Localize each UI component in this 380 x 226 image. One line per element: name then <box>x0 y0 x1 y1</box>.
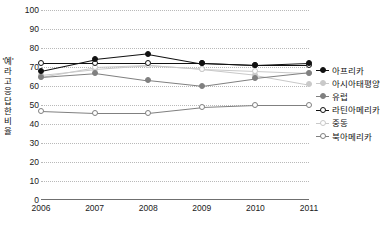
data-point <box>92 70 98 76</box>
gridline <box>41 86 309 87</box>
gridline <box>41 124 309 125</box>
data-point <box>199 60 205 66</box>
y-axis-tick-labels: 0102030405060708090100 <box>13 0 39 226</box>
data-point <box>145 51 151 57</box>
series-line <box>41 111 95 114</box>
gridline <box>41 162 309 163</box>
legend-label: 북아메리카 <box>332 132 372 142</box>
y-tick-label: 60 <box>17 81 39 91</box>
series-line <box>255 73 309 80</box>
series-line <box>148 107 202 114</box>
series-line <box>148 63 202 64</box>
legend-label: 라틴아메리카 <box>332 105 380 115</box>
line-chart: '예' 라고 응답한 비율 0102030405060708090100 200… <box>0 0 380 226</box>
legend-marker-icon <box>316 77 329 90</box>
y-tick-label: 100 <box>17 5 39 15</box>
legend-marker-icon <box>316 104 329 117</box>
data-point <box>199 83 205 89</box>
data-point <box>199 66 205 72</box>
x-tick-label: 2010 <box>246 203 265 213</box>
plot-area <box>41 10 309 200</box>
y-tick-label: 40 <box>17 119 39 129</box>
data-point <box>145 110 151 116</box>
y-tick-label: 30 <box>17 138 39 148</box>
series-line <box>41 63 95 64</box>
data-point <box>38 74 44 80</box>
data-point <box>306 102 312 108</box>
y-tick-label: 20 <box>17 157 39 167</box>
y-tick-label: 90 <box>17 24 39 34</box>
x-axis-tick-labels: 200620072008200920102011 <box>41 203 309 223</box>
x-tick-label: 2007 <box>85 203 104 213</box>
data-point <box>306 70 312 76</box>
series-line <box>94 73 148 82</box>
series-line <box>95 54 149 61</box>
data-point <box>92 110 98 116</box>
x-axis-line <box>41 199 309 200</box>
legend-item-3[interactable]: 유럽 <box>316 90 380 103</box>
legend-item-1[interactable]: 아프리카 <box>316 64 380 77</box>
x-tick-label: 2011 <box>300 203 318 213</box>
gridline <box>41 181 309 182</box>
x-tick-label: 2006 <box>32 203 51 213</box>
data-point <box>38 60 44 66</box>
series-line <box>95 113 149 114</box>
legend-label: 중동 <box>332 118 348 128</box>
data-point <box>38 68 44 74</box>
y-tick-label: 10 <box>17 176 39 186</box>
gridline <box>41 48 309 49</box>
legend-label: 아시아태평양 <box>332 79 380 89</box>
y-tick-label: 80 <box>17 43 39 53</box>
legend-item-6[interactable]: 북아메리카 <box>316 130 380 143</box>
data-point <box>252 68 258 74</box>
data-point <box>145 77 151 83</box>
data-point <box>145 60 151 66</box>
y-tick-label: 70 <box>17 62 39 72</box>
legend-item-4[interactable]: 라틴아메리카 <box>316 104 380 117</box>
gridline <box>41 143 309 144</box>
y-tick-label: 50 <box>17 100 39 110</box>
data-point <box>92 56 98 62</box>
data-point <box>38 108 44 114</box>
legend: 아프리카아시아태평양유럽라틴아메리카중동북아메리카 <box>316 64 380 143</box>
gridline <box>41 10 309 11</box>
data-point <box>252 102 258 108</box>
x-tick-label: 2008 <box>139 203 158 213</box>
series-line <box>95 63 149 64</box>
legend-label: 아프리카 <box>332 66 364 76</box>
data-point <box>252 62 258 68</box>
series-line <box>202 63 256 66</box>
legend-item-5[interactable]: 중동 <box>316 117 380 130</box>
data-point <box>306 81 312 87</box>
series-line <box>255 105 309 106</box>
legend-marker-icon <box>316 117 329 130</box>
legend-label: 유럽 <box>332 92 348 102</box>
legend-marker-icon <box>316 64 329 77</box>
data-point <box>252 75 258 81</box>
legend-item-2[interactable]: 아시아태평양 <box>316 77 380 90</box>
legend-marker-icon <box>316 90 329 103</box>
legend-marker-icon <box>316 130 329 143</box>
x-tick-label: 2009 <box>192 203 211 213</box>
gridline <box>41 29 309 30</box>
data-point <box>199 104 205 110</box>
data-point <box>306 60 312 66</box>
